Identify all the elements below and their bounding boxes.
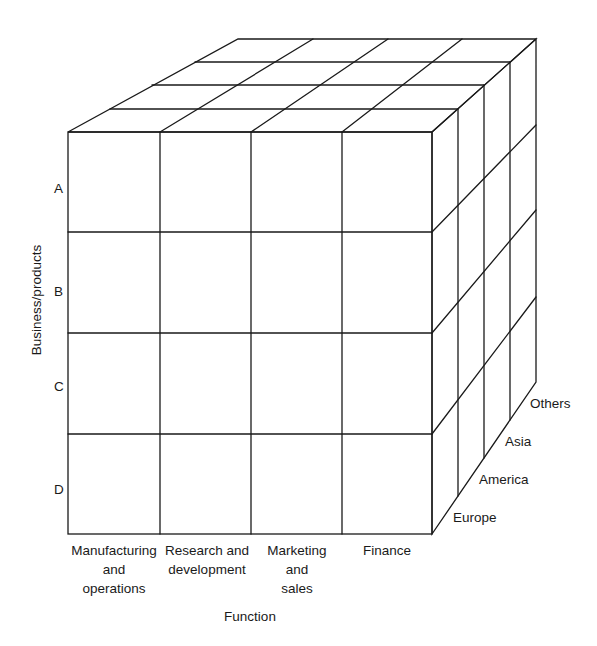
depth-label-europe: Europe <box>453 510 497 525</box>
vertical-axis-title: Business/products <box>29 245 44 355</box>
row-label-a: A <box>54 181 63 196</box>
column-label-research: Research and development <box>159 541 255 579</box>
row-label-b: B <box>54 284 63 299</box>
horizontal-axis-title: Function <box>224 609 276 624</box>
depth-label-america: America <box>479 472 529 487</box>
column-label-finance: Finance <box>339 541 435 560</box>
row-label-d: D <box>54 482 64 497</box>
column-label-marketing: Marketing and sales <box>249 541 345 598</box>
depth-label-others: Others <box>530 396 571 411</box>
column-label-manufacturing: Manufacturing and operations <box>66 541 162 598</box>
depth-label-asia: Asia <box>505 434 531 449</box>
row-label-c: C <box>54 379 64 394</box>
